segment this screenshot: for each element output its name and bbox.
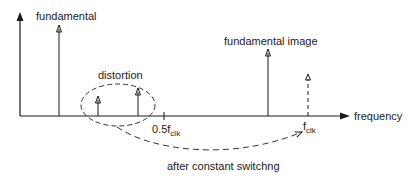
after-switching-label: after constant switchng <box>167 160 280 172</box>
frequency-label: frequency <box>354 110 403 122</box>
tick-label-clk: fclk <box>303 120 317 135</box>
distortion-ellipse <box>81 84 155 126</box>
fundamental-label: fundamental <box>36 10 97 22</box>
fundamental-line <box>57 25 62 116</box>
spectrum-diagram: fundamental distortion fundamental image… <box>0 0 412 183</box>
x-axis <box>20 112 350 120</box>
y-axis-arrow-icon <box>17 12 24 21</box>
y-axis <box>17 12 24 116</box>
distortion-line-2 <box>136 88 141 116</box>
x-axis-arrow-icon <box>340 113 350 120</box>
tick-label-half-clk: 0.5fclk <box>152 123 181 138</box>
switching-curve-arrow <box>117 127 302 150</box>
distortion-line-1 <box>96 96 101 116</box>
fundamental-image-label: fundamental image <box>224 35 318 47</box>
distortion-label: distortion <box>98 69 143 81</box>
fundamental-image-line <box>266 49 271 116</box>
clk-dashed-line <box>306 74 311 116</box>
